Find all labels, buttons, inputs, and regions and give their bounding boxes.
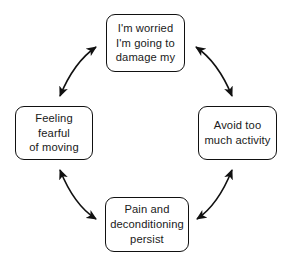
node-pain-deconditioning: Pain and deconditioning persist	[105, 197, 189, 252]
connector-worry-avoid	[196, 47, 232, 96]
node-feeling-fearful-label: Feeling fearful of moving	[16, 111, 92, 155]
connector-fear-worry	[60, 47, 96, 96]
connector-pain-fear	[60, 170, 96, 219]
node-worried-damage-label: I'm worried I'm going to damage my	[113, 21, 178, 65]
cycle-diagram: I'm worried I'm going to damage my Avoid…	[0, 0, 293, 269]
node-feeling-fearful: Feeling fearful of moving	[15, 106, 93, 160]
node-avoid-activity-label: Avoid too much activity	[201, 118, 273, 148]
connector-avoid-pain	[197, 170, 232, 219]
node-avoid-activity: Avoid too much activity	[198, 106, 277, 160]
node-pain-deconditioning-label: Pain and deconditioning persist	[107, 202, 187, 246]
node-worried-damage: I'm worried I'm going to damage my	[106, 14, 185, 72]
